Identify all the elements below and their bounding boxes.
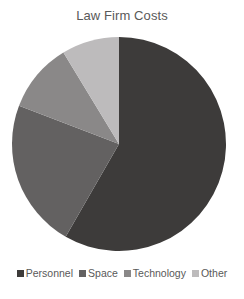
legend-swatch-other [192, 270, 199, 277]
legend-item-personnel: Personnel [17, 267, 73, 279]
legend-item-space: Space [79, 267, 118, 279]
legend-item-technology: Technology [124, 267, 186, 279]
legend-label-other: Other [201, 267, 227, 279]
pie-chart [0, 0, 244, 299]
legend-swatch-personnel [17, 270, 24, 277]
legend-swatch-technology [124, 270, 131, 277]
legend-label-technology: Technology [133, 267, 186, 279]
legend-item-other: Other [192, 267, 227, 279]
legend-label-space: Space [88, 267, 118, 279]
legend: Personnel Space Technology Other [0, 267, 244, 279]
legend-swatch-space [79, 270, 86, 277]
legend-label-personnel: Personnel [26, 267, 73, 279]
